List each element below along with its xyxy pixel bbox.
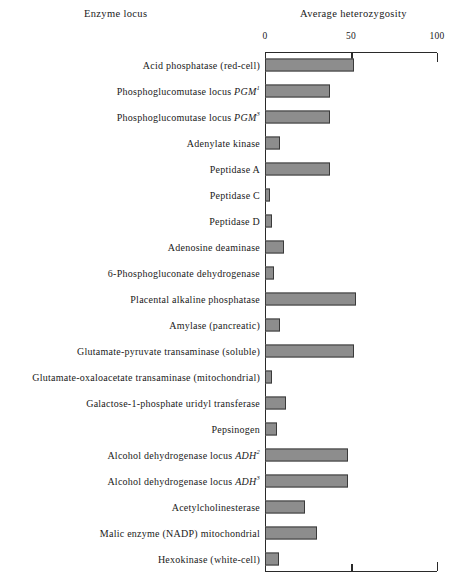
bar-16 <box>265 475 348 488</box>
bar-14 <box>265 423 277 436</box>
bar-13 <box>265 397 286 410</box>
bar-row: Peptidase D <box>0 208 452 234</box>
bar-row: Placental alkaline phosphatase <box>0 286 452 312</box>
bar-row: Adenylate kinase <box>0 130 452 156</box>
bar-label-0: Acid phosphatase (red-cell) <box>143 60 260 71</box>
bar-row: 6-Phosphogluconate dehydrogenase <box>0 260 452 286</box>
bar-label-7: Adenosine deaminase <box>168 242 260 253</box>
bar-label-18: Malic enzyme (NADP) mitochondrial <box>100 528 260 539</box>
bar-12 <box>265 371 272 384</box>
bar-label-9: Placental alkaline phosphatase <box>130 294 260 305</box>
x-tick-label-50: 50 <box>346 31 356 41</box>
bar-label-8: 6-Phosphogluconate dehydrogenase <box>108 268 260 279</box>
bar-label-14: Pepsinogen <box>211 424 260 435</box>
bar-row: Peptidase A <box>0 156 452 182</box>
x-tick-label-0: 0 <box>262 31 267 41</box>
bar-row: Alcohol dehydrogenase locus ADH2 <box>0 442 452 468</box>
bar-row: Acetylcholinesterase <box>0 494 452 520</box>
bar-row: Malic enzyme (NADP) mitochondrial <box>0 520 452 546</box>
bar-15 <box>265 449 348 462</box>
bar-5 <box>265 189 270 202</box>
heterozygosity-bar-chart: Enzyme locus Average heterozygosity 0501… <box>0 0 452 585</box>
bar-3 <box>265 137 280 150</box>
bar-7 <box>265 241 284 254</box>
x-tick-label-100: 100 <box>429 31 444 41</box>
bar-9 <box>265 293 356 306</box>
bar-4 <box>265 163 330 176</box>
bar-2 <box>265 111 330 124</box>
bar-19 <box>265 553 279 566</box>
bar-row: Glutamate-pyruvate transaminase (soluble… <box>0 338 452 364</box>
bar-18 <box>265 527 317 540</box>
bar-row: Phosphoglucomutase locus PGM1 <box>0 78 452 104</box>
enzyme-locus-title: Enzyme locus <box>84 8 147 19</box>
bar-label-19: Hexokinase (white-cell) <box>158 554 260 565</box>
bar-6 <box>265 215 272 228</box>
bar-10 <box>265 319 280 332</box>
bar-11 <box>265 345 354 358</box>
bar-row: Galactose-1-phosphate uridyl transferase <box>0 390 452 416</box>
bar-row: Adenosine deaminase <box>0 234 452 260</box>
bar-label-15: Alcohol dehydrogenase locus ADH2 <box>107 450 260 461</box>
bar-1 <box>265 85 330 98</box>
bar-label-3: Adenylate kinase <box>187 138 260 149</box>
bar-0 <box>265 59 354 72</box>
bar-row: Amylase (pancreatic) <box>0 312 452 338</box>
bar-label-16: Alcohol dehydrogenase locus ADH3 <box>107 476 260 487</box>
average-heterozygosity-title: Average heterozygosity <box>300 8 407 19</box>
bar-label-10: Amylase (pancreatic) <box>169 320 260 331</box>
bar-8 <box>265 267 274 280</box>
bar-row: Glutamate-oxaloacetate transaminase (mit… <box>0 364 452 390</box>
bar-17 <box>265 501 305 514</box>
bar-label-4: Peptidase A <box>210 164 260 175</box>
bar-label-11: Glutamate-pyruvate transaminase (soluble… <box>77 346 260 357</box>
bar-label-5: Peptidase C <box>210 190 260 201</box>
bar-row: Acid phosphatase (red-cell) <box>0 52 452 78</box>
bar-label-13: Galactose-1-phosphate uridyl transferase <box>86 398 260 409</box>
bar-label-12: Glutamate-oxaloacetate transaminase (mit… <box>32 372 260 383</box>
bar-label-1: Phosphoglucomutase locus PGM1 <box>117 86 260 97</box>
bar-label-17: Acetylcholinesterase <box>172 502 260 513</box>
bar-row: Pepsinogen <box>0 416 452 442</box>
bar-row: Alcohol dehydrogenase locus ADH3 <box>0 468 452 494</box>
bar-row: Peptidase C <box>0 182 452 208</box>
bar-row: Hexokinase (white-cell) <box>0 546 452 572</box>
bar-label-2: Phosphoglucomutase locus PGM3 <box>117 112 260 123</box>
bar-row: Phosphoglucomutase locus PGM3 <box>0 104 452 130</box>
bar-label-6: Peptidase D <box>209 216 260 227</box>
